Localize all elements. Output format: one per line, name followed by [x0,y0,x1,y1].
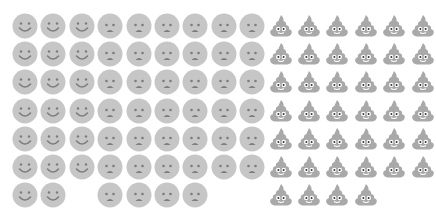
pile-of-poo-icon [381,69,407,95]
pile-of-poo-icon [268,126,294,152]
frowning-face-icon [97,126,123,152]
smiling-face-icon [40,154,66,180]
frowning-face-icon [182,154,208,180]
frowning-face-icon [239,41,265,67]
smiling-face-icon [12,126,38,152]
pile-of-poo-icon [324,69,350,95]
frowning-face-icon [97,182,123,208]
pile-of-poo-icon [353,69,379,95]
smiling-face-icon [69,69,95,95]
frowning-face-icon [154,154,180,180]
pile-of-poo-icon [410,41,436,67]
pile-of-poo-icon [296,98,322,124]
frowning-face-icon [126,154,152,180]
pile-of-poo-icon [268,69,294,95]
pile-of-poo-icon [324,182,350,208]
pile-of-poo-icon [410,69,436,95]
pile-of-poo-icon [268,98,294,124]
pictogram-chart [0,0,436,218]
frowning-face-icon [126,41,152,67]
frowning-face-icon [126,126,152,152]
pile-of-poo-icon [353,98,379,124]
frowning-face-icon [211,41,237,67]
frowning-face-icon [211,154,237,180]
smiling-face-icon [69,41,95,67]
smiling-face-icon [12,13,38,39]
pile-of-poo-icon [353,13,379,39]
frowning-face-icon [154,182,180,208]
frowning-face-icon [154,98,180,124]
pile-of-poo-icon [324,98,350,124]
frowning-face-icon [97,98,123,124]
pile-of-poo-icon [268,182,294,208]
frowning-face-icon [126,98,152,124]
frowning-face-icon [182,182,208,208]
smiling-face-icon [40,41,66,67]
frowning-face-icon [126,13,152,39]
pile-of-poo-icon [353,126,379,152]
frowning-face-icon [182,98,208,124]
pile-of-poo-icon [410,98,436,124]
smiling-face-icon [69,154,95,180]
frowning-face-icon [154,41,180,67]
smiling-face-icon [12,69,38,95]
smiling-face-icon [40,98,66,124]
pile-of-poo-icon [381,154,407,180]
frowning-face-icon [126,69,152,95]
pile-of-poo-icon [381,98,407,124]
frowning-face-icon [211,126,237,152]
pile-of-poo-icon [296,69,322,95]
smiling-face-icon [12,41,38,67]
pile-of-poo-icon [324,41,350,67]
pile-of-poo-icon [353,182,379,208]
pile-of-poo-icon [324,154,350,180]
frowning-face-icon [182,41,208,67]
frowning-face-icon [126,182,152,208]
frowning-face-icon [211,98,237,124]
pile-of-poo-icon [353,41,379,67]
pile-of-poo-icon [296,126,322,152]
pile-of-poo-icon [353,154,379,180]
pile-of-poo-icon [381,41,407,67]
smiling-face-icon [40,182,66,208]
pile-of-poo-icon [410,126,436,152]
smiling-face-icon [69,98,95,124]
pile-of-poo-icon [381,126,407,152]
smiling-face-icon [40,126,66,152]
smiling-face-icon [69,126,95,152]
frowning-face-icon [211,69,237,95]
pile-of-poo-icon [324,13,350,39]
frowning-face-icon [182,69,208,95]
frowning-face-icon [239,13,265,39]
pile-of-poo-icon [268,41,294,67]
frowning-face-icon [239,154,265,180]
frowning-face-icon [154,126,180,152]
frowning-face-icon [97,13,123,39]
smiling-face-icon [40,13,66,39]
pile-of-poo-icon [296,154,322,180]
smiling-face-icon [40,69,66,95]
frowning-face-icon [239,69,265,95]
smiling-face-icon [69,13,95,39]
pile-of-poo-icon [268,13,294,39]
smiling-face-icon [12,98,38,124]
frowning-face-icon [97,154,123,180]
smiling-face-icon [12,154,38,180]
pile-of-poo-icon [410,154,436,180]
pile-of-poo-icon [410,13,436,39]
frowning-face-icon [154,13,180,39]
pile-of-poo-icon [268,154,294,180]
frowning-face-icon [211,13,237,39]
pile-of-poo-icon [296,13,322,39]
pile-of-poo-icon [324,126,350,152]
frowning-face-icon [97,41,123,67]
pile-of-poo-icon [296,182,322,208]
frowning-face-icon [182,126,208,152]
pile-of-poo-icon [381,13,407,39]
frowning-face-icon [154,69,180,95]
frowning-face-icon [239,126,265,152]
frowning-face-icon [97,69,123,95]
frowning-face-icon [182,13,208,39]
frowning-face-icon [239,98,265,124]
pile-of-poo-icon [296,41,322,67]
